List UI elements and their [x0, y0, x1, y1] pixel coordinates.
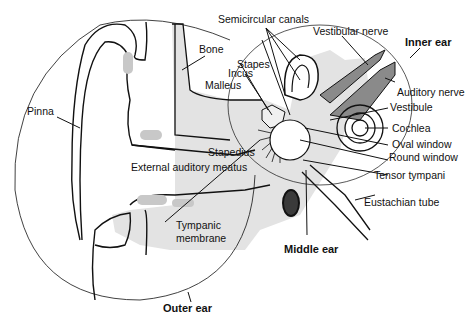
- label-oval-window: Oval window: [392, 138, 452, 150]
- pinna-outline: [72, 22, 147, 240]
- label-eustachian-tube: Eustachian tube: [364, 196, 439, 208]
- label-bone: Bone: [199, 43, 224, 55]
- label-auditory-nerve: Auditory nerve: [397, 86, 465, 98]
- label-middle-ear: Middle ear: [284, 243, 338, 255]
- label-external-auditory-meatus: External auditory meatus: [131, 161, 247, 173]
- label-outer-ear: Outer ear: [163, 302, 212, 314]
- label-inner-ear: Inner ear: [405, 36, 451, 48]
- label-vestibule: Vestibule: [390, 101, 433, 113]
- label-vestibular-nerve: Vestibular nerve: [313, 25, 388, 37]
- ear-anatomy-diagram: Semicircular canals Vestibular nerve Inn…: [0, 0, 467, 321]
- label-malleus: Malleus: [205, 79, 241, 91]
- label-cochlea: Cochlea: [392, 122, 431, 134]
- label-pinna: Pinna: [27, 105, 54, 117]
- label-incus: Incus: [228, 67, 253, 79]
- label-tympanic-membrane-line1: Tympanic: [176, 219, 221, 231]
- label-tensor-tympani: Tensor tympani: [374, 169, 445, 181]
- semicircular-canals: [285, 55, 319, 100]
- label-tympanic-membrane-line2: membrane: [176, 232, 226, 244]
- label-stapedius: Stapedius: [208, 146, 255, 158]
- label-round-window: Round window: [389, 151, 458, 163]
- carotid-structure: [283, 190, 299, 216]
- label-semicircular-canals: Semicircular canals: [218, 13, 309, 25]
